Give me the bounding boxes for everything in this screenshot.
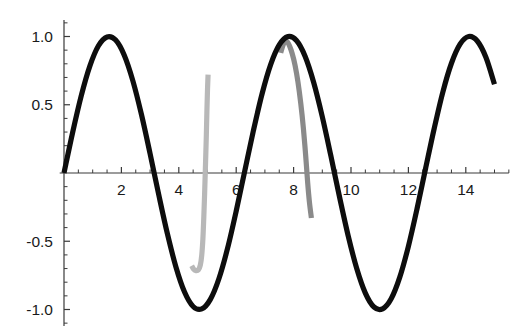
x-tick-label: 14 [457, 181, 475, 198]
x-tick-label: 2 [117, 181, 126, 198]
plot-area: 24681012141.00.5-0.5-1.0 [0, 0, 515, 327]
x-tick-label: 12 [400, 181, 417, 198]
y-tick-label: -0.5 [26, 233, 53, 250]
y-tick-label: -1.0 [26, 301, 53, 318]
y-tick-label: 1.0 [31, 28, 53, 45]
x-tick-label: 10 [342, 181, 360, 198]
y-tick-label: 0.5 [31, 96, 53, 113]
x-tick-label: 8 [289, 181, 298, 198]
x-tick-label: 4 [174, 181, 183, 198]
sine-plot-svg: 24681012141.00.5-0.5-1.0 [0, 0, 515, 327]
